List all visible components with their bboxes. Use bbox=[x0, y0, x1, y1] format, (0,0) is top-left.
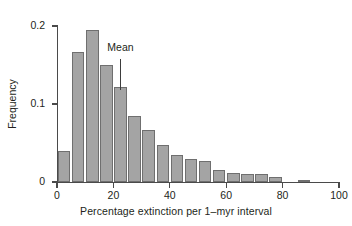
x-axis-tick bbox=[169, 183, 170, 189]
histogram-bar bbox=[213, 170, 226, 182]
bars-layer bbox=[57, 26, 339, 182]
histogram-figure: 00.10.2020406080100 Mean Percentage exti… bbox=[0, 0, 352, 226]
histogram-bar bbox=[128, 116, 141, 182]
histogram-bar bbox=[185, 159, 198, 182]
histogram-bar bbox=[114, 87, 127, 182]
histogram-bar bbox=[157, 145, 170, 182]
mean-annotation-pointer bbox=[120, 59, 121, 90]
x-axis-tick bbox=[56, 183, 57, 189]
histogram-bar bbox=[100, 65, 113, 182]
y-axis-tick-label: 0.1 bbox=[30, 98, 45, 109]
histogram-bar bbox=[142, 130, 155, 182]
mean-annotation-label: Mean bbox=[107, 42, 133, 53]
x-axis-tick bbox=[113, 183, 114, 189]
histogram-bar bbox=[72, 52, 85, 182]
x-axis-tick bbox=[226, 183, 227, 189]
y-axis-tick bbox=[52, 103, 58, 104]
x-axis-tick bbox=[282, 183, 283, 189]
x-axis-tick-label: 40 bbox=[164, 190, 176, 201]
x-axis-tick-label: 100 bbox=[330, 190, 348, 201]
y-axis-tick bbox=[52, 25, 58, 26]
plot-area bbox=[57, 26, 339, 182]
histogram-bar bbox=[199, 161, 212, 182]
x-axis-tick-label: 20 bbox=[108, 190, 120, 201]
histogram-bar bbox=[86, 30, 99, 182]
x-axis-line bbox=[57, 182, 340, 183]
histogram-bar bbox=[227, 173, 240, 182]
x-axis-tick-label: 60 bbox=[220, 190, 232, 201]
x-axis-title: Percentage extinction per 1–myr interval bbox=[0, 205, 352, 217]
x-axis-tick bbox=[338, 183, 339, 189]
histogram-bar bbox=[58, 151, 71, 182]
y-axis-tick-label: 0 bbox=[39, 176, 45, 187]
x-axis-tick-label: 80 bbox=[277, 190, 289, 201]
histogram-bar bbox=[171, 155, 184, 182]
y-axis-title: Frequency bbox=[6, 59, 18, 149]
y-axis-tick-label: 0.2 bbox=[30, 20, 45, 31]
x-axis-tick-label: 0 bbox=[54, 190, 60, 201]
